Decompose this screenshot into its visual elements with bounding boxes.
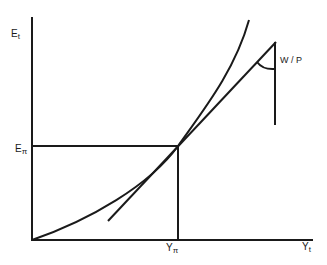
wage-ratio-label: W / P [280, 55, 302, 65]
tangent-line [108, 42, 276, 221]
x-axis-label: Yt [302, 241, 312, 254]
e-pi-label: Eπ [15, 143, 28, 156]
production-curve [32, 20, 249, 240]
diagram: Et Eπ Yπ Yt W / P [0, 0, 327, 265]
y-axis-label: Et [11, 28, 21, 41]
y-pi-label: Yπ [166, 242, 179, 255]
angle-arc [257, 62, 275, 69]
